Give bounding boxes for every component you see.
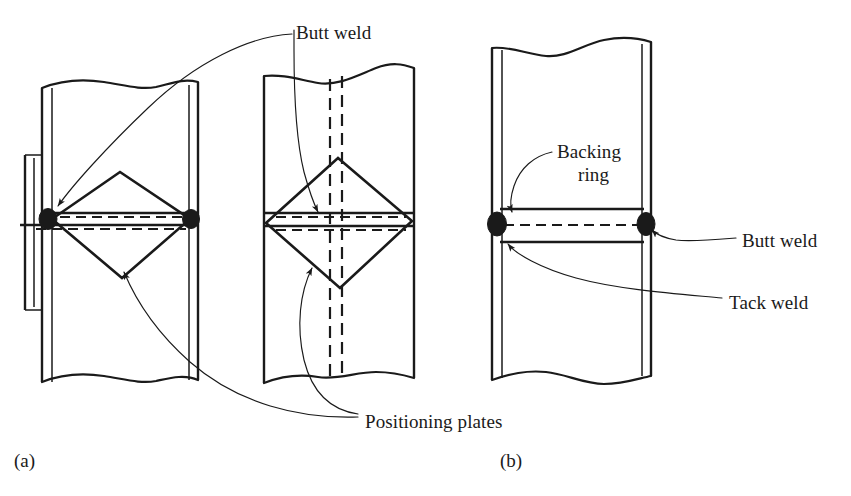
pipe-b-top-break-line <box>492 38 651 56</box>
weld-bead-a-left <box>39 209 57 230</box>
pipe-a-bottom-break-line <box>42 374 198 382</box>
weld-bead-b-right <box>637 213 655 236</box>
leader-butt-weld-right <box>652 230 736 241</box>
panel-tag-a: (a) <box>14 450 35 472</box>
leader-positioning-plates-to-a <box>124 272 358 417</box>
leader-lines-group <box>58 30 736 417</box>
pipe-section-a-front-view <box>264 64 414 383</box>
weld-bead-b-left <box>488 212 507 236</box>
label-tack-weld-right: Tack weld <box>729 292 808 314</box>
pipe-b-bottom-break-line <box>492 371 651 384</box>
label-positioning-plates: Positioning plates <box>365 411 502 433</box>
positioning-plate-diamond-front <box>266 158 412 288</box>
leader-tack-weld-right <box>508 244 722 298</box>
panel-tag-b: (b) <box>500 450 522 472</box>
weld-bead-a-right <box>183 210 200 229</box>
label-backing-ring-line-2: ring <box>578 164 609 186</box>
leader-butt-weld-to-mid <box>294 30 318 212</box>
welded-joint-figure: Butt weld Positioning plates Backing rin… <box>0 0 851 496</box>
leader-butt-weld-to-a <box>58 34 292 206</box>
pipe-section-b <box>488 38 656 384</box>
label-butt-weld-right: Butt weld <box>742 230 817 252</box>
label-butt-weld-top: Butt weld <box>296 22 371 44</box>
pipe-mid-bottom-break-line <box>264 372 414 383</box>
label-backing-ring-line-1: Backing <box>557 141 621 163</box>
pipe-section-a <box>20 80 200 382</box>
pipe-mid-top-break-line <box>264 64 414 83</box>
leader-backing-ring <box>511 152 552 212</box>
